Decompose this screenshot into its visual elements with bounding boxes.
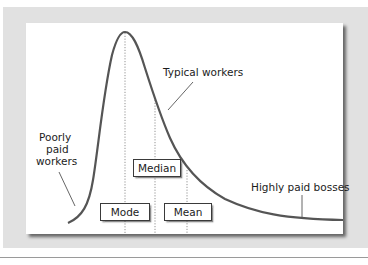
typical-leader bbox=[168, 82, 193, 110]
mean-box: Mean bbox=[164, 203, 212, 221]
highly-paid-bosses-label: Highly paid bosses bbox=[251, 181, 350, 193]
distribution-curve bbox=[68, 32, 343, 223]
poorly-paid-label-1: Poorly bbox=[39, 131, 71, 143]
typical-workers-label: Typical workers bbox=[163, 66, 243, 78]
poorly-leader bbox=[59, 172, 75, 206]
poorly-paid-label-2: paid bbox=[46, 143, 69, 155]
poorly-paid-label-3: workers bbox=[36, 155, 77, 167]
median-box: Median bbox=[133, 159, 181, 177]
mode-box: Mode bbox=[100, 203, 150, 221]
